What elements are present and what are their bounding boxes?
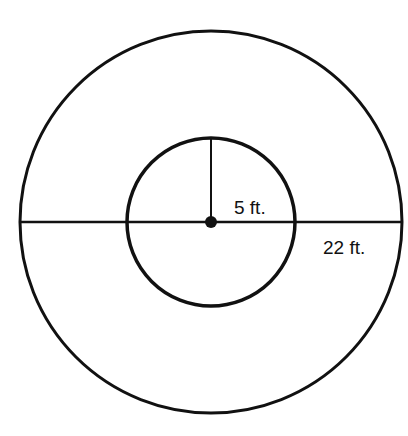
inner-radius-label: 5 ft. (234, 197, 266, 219)
concentric-circles-figure (0, 0, 408, 436)
diagram-canvas: 5 ft. 22 ft. (0, 0, 408, 436)
center-point (205, 216, 217, 228)
outer-diameter-label: 22 ft. (323, 237, 365, 259)
